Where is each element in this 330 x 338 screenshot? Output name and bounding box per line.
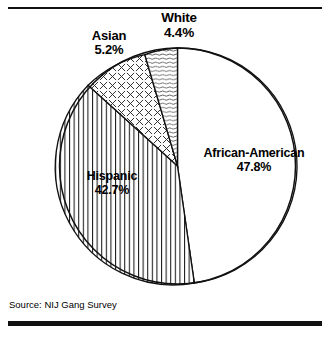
slice-label-hispanic: Hispanic 42.7% [60, 170, 164, 197]
slice-label-hispanic-value: 42.7% [60, 184, 164, 198]
slice-label-hispanic-name: Hispanic [87, 169, 138, 183]
slice-label-asian-value: 5.2% [67, 43, 151, 57]
source-note: Source: NIJ Gang Survey [9, 299, 117, 310]
bottom-divider-rule [8, 321, 322, 326]
slice-label-asian: Asian 5.2% [67, 29, 151, 57]
pie-chart-figure: White 4.4% Asian 5.2% African-American 4… [0, 0, 330, 338]
slice-label-white-name: White [161, 10, 197, 25]
slice-label-african-american-name: African-American [204, 146, 305, 160]
slice-label-african-american-value: 47.8% [186, 161, 322, 175]
slice-label-african-american: African-American 47.8% [186, 147, 322, 174]
slice-label-asian-name: Asian [92, 28, 126, 43]
